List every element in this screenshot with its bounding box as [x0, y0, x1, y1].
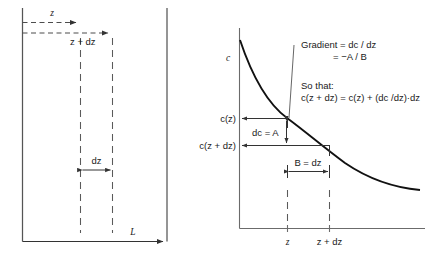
figure-container: z z + dz dz L	[0, 0, 447, 254]
diffusion-diagram-svg: z z + dz dz L	[0, 0, 447, 254]
slab-label-z-plus-dz: z + dz	[70, 36, 96, 47]
annotation-dc-label: dc = A	[252, 127, 279, 138]
slab-schematic-group: z z + dz dz L	[23, 8, 168, 242]
graph-y-tick-label-cz-plus-dz: c(z + dz)	[199, 140, 236, 151]
annotation-B-label: B = dz	[294, 157, 321, 168]
graph-y-axis-label: c	[226, 53, 231, 63]
annotation-so-that: So that:	[301, 80, 334, 91]
slab-label-dz: dz	[91, 155, 101, 166]
annotation-gradient-line2: = −A / B	[333, 51, 367, 62]
gradient-leader-line	[289, 45, 294, 118]
graph-y-tick-label-cz: c(z)	[220, 113, 236, 124]
graph-x-tick-label-z-plus-dz: z + dz	[317, 236, 343, 247]
annotation-gradient-line1: Gradient = dc / dz	[301, 39, 376, 50]
graph-x-tick-label-z: z	[285, 237, 290, 247]
concentration-graph-group: c c(z) c(z + dz) z z + dz Gradient = dc …	[199, 28, 425, 247]
slab-label-L: L	[129, 227, 135, 237]
slab-label-z: z	[49, 8, 54, 18]
annotation-equation: c(z + dz) = c(z) + (dc /dz)·dz	[301, 92, 420, 103]
